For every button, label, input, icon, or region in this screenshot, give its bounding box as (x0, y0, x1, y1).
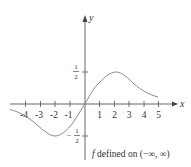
function-graph: x y -4 -3 -2 -1 1 2 3 4 5 1 2 − 1 2 (0, 0, 191, 167)
svg-text:1: 1 (75, 127, 79, 135)
y-axis-arrow-icon (83, 15, 88, 22)
y-tick-label-half: 1 2 (73, 63, 79, 81)
svg-text:−: − (67, 131, 72, 140)
y-tick-label-neg-half: − 1 2 (67, 127, 80, 145)
svg-text:1: 1 (74, 63, 78, 71)
x-axis-label: x (179, 98, 185, 109)
y-axis-label: y (88, 12, 94, 23)
svg-text:2: 2 (75, 137, 79, 145)
svg-text:2: 2 (74, 73, 78, 81)
svg-text:-3: -3 (35, 110, 43, 120)
svg-text:-1: -1 (65, 110, 73, 120)
svg-text:2: 2 (112, 110, 117, 120)
caption: f defined on (−∞, ∞) (92, 149, 170, 160)
x-axis-arrow-icon (172, 102, 178, 107)
svg-text:1: 1 (97, 110, 102, 120)
svg-text:3: 3 (127, 110, 132, 120)
svg-text:5: 5 (156, 110, 161, 120)
x-tick-labels: -4 -3 -2 -1 1 2 3 4 5 (20, 110, 161, 120)
svg-text:-2: -2 (50, 110, 58, 120)
svg-text:4: 4 (142, 110, 147, 120)
